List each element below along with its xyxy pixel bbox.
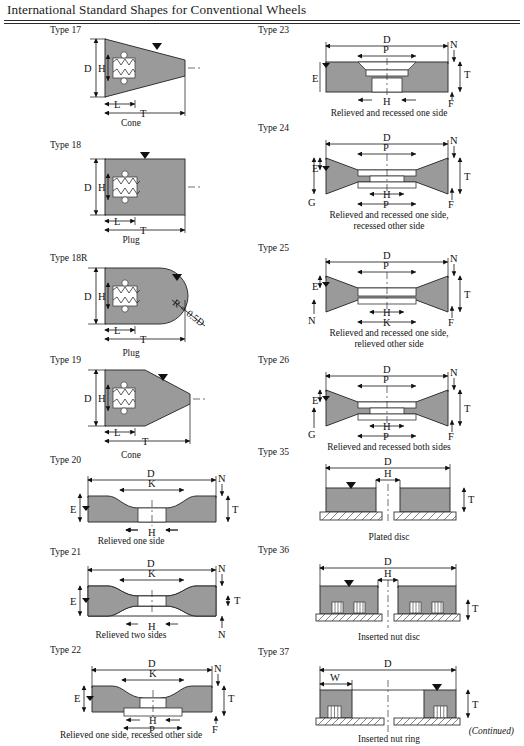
dim-P: P — [383, 44, 389, 55]
dim-H: H — [98, 291, 106, 302]
dim-D: D — [84, 291, 92, 302]
dim-N: N — [450, 39, 458, 50]
dim-T: T — [464, 289, 471, 300]
dim-T: T — [472, 603, 479, 614]
diagram-hourglass-both: D P H P N E G T F — [258, 368, 520, 440]
figure-type-22: Type 22 D K H P — [0, 644, 262, 739]
dim-L: L — [114, 216, 120, 227]
dim-T: T — [142, 436, 149, 447]
dim-F: F — [448, 317, 454, 328]
title-rule-upper — [4, 20, 520, 21]
right-column: Type 23 D P H — [258, 24, 520, 740]
dim-F: F — [448, 431, 454, 442]
dim-T: T — [472, 699, 479, 710]
figure-type-18: Type 18 D H L — [0, 139, 262, 239]
figure-caption: Cone — [0, 118, 262, 129]
dim-H: H — [98, 182, 106, 193]
dim-T: T — [464, 171, 471, 182]
figure-type-17: Type 17 — [0, 24, 262, 124]
figure-type-21: Type 21 D K H N — [0, 546, 262, 641]
dim-D: D — [84, 393, 92, 404]
dim-D: D — [384, 556, 392, 567]
dim-G: G — [308, 429, 316, 440]
dim-E: E — [74, 693, 80, 704]
dim-P-lower: P — [383, 199, 389, 210]
dim-K: K — [149, 668, 157, 679]
figure-caption: Relieved two sides — [0, 630, 262, 641]
dim-P-lower: P — [383, 431, 389, 442]
dim-K: K — [148, 478, 156, 489]
dim-T: T — [234, 595, 241, 606]
left-column: Type 17 — [0, 24, 262, 740]
dim-T: T — [140, 334, 147, 345]
figure-caption: Relieved one side, recessed other side — [0, 730, 262, 741]
figure-caption-line2: relieved other side — [258, 339, 520, 350]
figure-type-23: Type 23 D P H — [258, 24, 520, 119]
diagram-plug-radius: D H R = 0.5D L T — [0, 260, 262, 342]
figure-type-24: Type 24 D P H P — [258, 122, 520, 232]
dim-T: T — [464, 69, 471, 80]
diagram-plug: D H L T — [0, 151, 262, 229]
dim-N: N — [450, 135, 458, 146]
dim-L: L — [114, 325, 120, 336]
dim-H: H — [384, 568, 392, 579]
diagram-hourglass-relieved: D P H K N E N T F — [258, 254, 520, 326]
diagram-relieved-two-sides: D K H N N E T — [0, 556, 262, 630]
figure-caption: Plated disc — [258, 532, 520, 543]
diagram-plated-disc: D H T — [258, 454, 520, 530]
dim-P: P — [383, 260, 389, 271]
diagram-hourglass-recessed: D P H P N E G T F — [258, 136, 520, 208]
dim-D: D — [384, 456, 392, 467]
dim-E: E — [70, 504, 76, 515]
type-label: Type 25 — [258, 242, 289, 253]
figure-caption-line1: Relieved and recessed one side, — [258, 210, 520, 221]
dim-W: W — [330, 672, 340, 683]
dim-T: T — [232, 504, 239, 515]
figure-caption-line2: recessed other side — [258, 221, 520, 232]
dim-T: T — [468, 494, 475, 505]
dim-E: E — [312, 73, 318, 84]
dim-N-bottom: N — [308, 315, 316, 326]
diagram-cone: D H L T — [0, 24, 262, 112]
page-title: International Standard Shapes for Conven… — [7, 2, 306, 18]
dim-D: D — [84, 63, 92, 74]
figure-type-26: Type 26 D P H P — [258, 354, 520, 454]
dim-H: H — [98, 63, 106, 74]
figure-type-20: Type 20 D K — [0, 454, 262, 544]
dim-G: G — [308, 197, 316, 208]
continued-footer: (Continued) — [469, 726, 514, 736]
figure-caption-line1: Relieved and recessed one side, — [258, 328, 520, 339]
diagram-cone-long: D H L T — [0, 362, 262, 444]
figure-caption: Relieved and recessed one side — [258, 108, 520, 119]
diagram-inserted-nut-disc: D H T — [258, 554, 520, 632]
type-label: Type 26 — [258, 354, 289, 365]
dim-K: K — [383, 317, 391, 328]
type-label: Type 24 — [258, 122, 289, 133]
dim-N-top: N — [218, 563, 226, 574]
dim-L: L — [114, 427, 120, 438]
type-label: Type 18 — [50, 139, 81, 150]
dim-N: N — [450, 367, 458, 378]
diagram-inserted-nut-ring: D W T — [258, 656, 520, 734]
dim-P: P — [383, 374, 389, 385]
figure-type-18r: Type 18R D H R = 0.5D — [0, 252, 262, 357]
figure-type-35: Type 35 D H — [258, 446, 520, 544]
dim-H: H — [383, 96, 391, 107]
dim-N-top: N — [450, 253, 458, 264]
figure-caption: Plug — [0, 235, 262, 246]
dim-F: F — [448, 199, 454, 210]
dim-T: T — [464, 403, 471, 414]
dim-H: H — [384, 468, 392, 479]
figure-caption: Inserted nut disc — [258, 632, 520, 643]
dim-P: P — [383, 142, 389, 153]
dim-E: E — [312, 395, 318, 406]
dim-K: K — [148, 568, 156, 579]
dim-D: D — [84, 182, 92, 193]
dim-L: L — [114, 99, 120, 110]
dim-E: E — [312, 163, 318, 174]
figure-type-19: Type 19 D H L — [0, 354, 262, 454]
dim-N: N — [214, 663, 222, 674]
dim-D: D — [384, 658, 392, 669]
figure-type-25: Type 25 D P H K N — [258, 242, 520, 352]
